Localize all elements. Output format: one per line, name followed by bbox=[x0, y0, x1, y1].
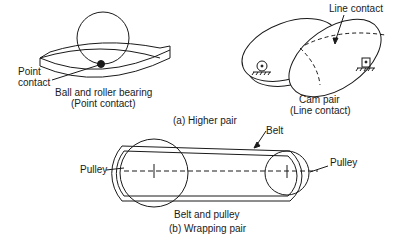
point-contact-label-1: Point bbox=[18, 66, 41, 77]
left-pulley-leader bbox=[106, 168, 124, 170]
higher-pair-caption: (a) Higher pair bbox=[173, 115, 238, 126]
belt-pulley-title: Belt and pulley bbox=[174, 209, 240, 220]
wrapping-pair-caption: (b) Wrapping pair bbox=[169, 223, 247, 234]
belt-inner bbox=[116, 151, 297, 196]
cam-subtitle: (Line contact) bbox=[290, 105, 351, 116]
race-front bbox=[40, 46, 170, 77]
belt-label: Belt bbox=[266, 125, 283, 136]
race-top-back bbox=[40, 49, 160, 58]
belt-pulley-illustration bbox=[106, 131, 328, 207]
belt-outer bbox=[112, 146, 302, 201]
left-pulley-label: Pulley bbox=[80, 164, 107, 175]
point-contact-dot bbox=[98, 61, 105, 68]
right-pulley-leader bbox=[310, 166, 328, 172]
ball bbox=[77, 12, 129, 64]
right-pulley-label: Pulley bbox=[330, 157, 357, 168]
bearing-title: Ball and roller bearing bbox=[55, 87, 152, 98]
kinematic-pairs-diagram: Point contact Ball and roller bearing (P… bbox=[0, 0, 399, 242]
line-contact-label: Line contact bbox=[329, 3, 383, 14]
point-contact-label-2: contact bbox=[18, 77, 50, 88]
bearing-subtitle: (Point contact) bbox=[71, 98, 135, 109]
cam-title: Cam pair bbox=[299, 94, 340, 105]
bearing-illustration bbox=[40, 12, 170, 80]
